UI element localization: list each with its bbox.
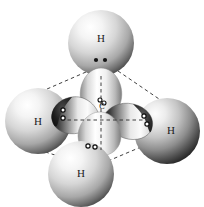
molecule-canvas xyxy=(0,0,204,207)
electron-dot xyxy=(86,144,90,148)
hydrogen-atom-top xyxy=(68,10,134,76)
electron-dot xyxy=(61,108,65,112)
methane-orbital-figure: H H H H C xyxy=(0,0,204,207)
hydrogen-atom-bottom xyxy=(48,141,114,207)
electron-dot xyxy=(94,58,98,62)
electron-dot xyxy=(61,116,65,120)
electron-dot xyxy=(93,145,97,149)
electron-dot xyxy=(142,114,146,118)
edge-top-right xyxy=(118,71,162,101)
electron-dot xyxy=(103,58,107,62)
electron-dot xyxy=(145,122,149,126)
electron-dot xyxy=(102,101,106,105)
electron-dot xyxy=(98,98,102,102)
